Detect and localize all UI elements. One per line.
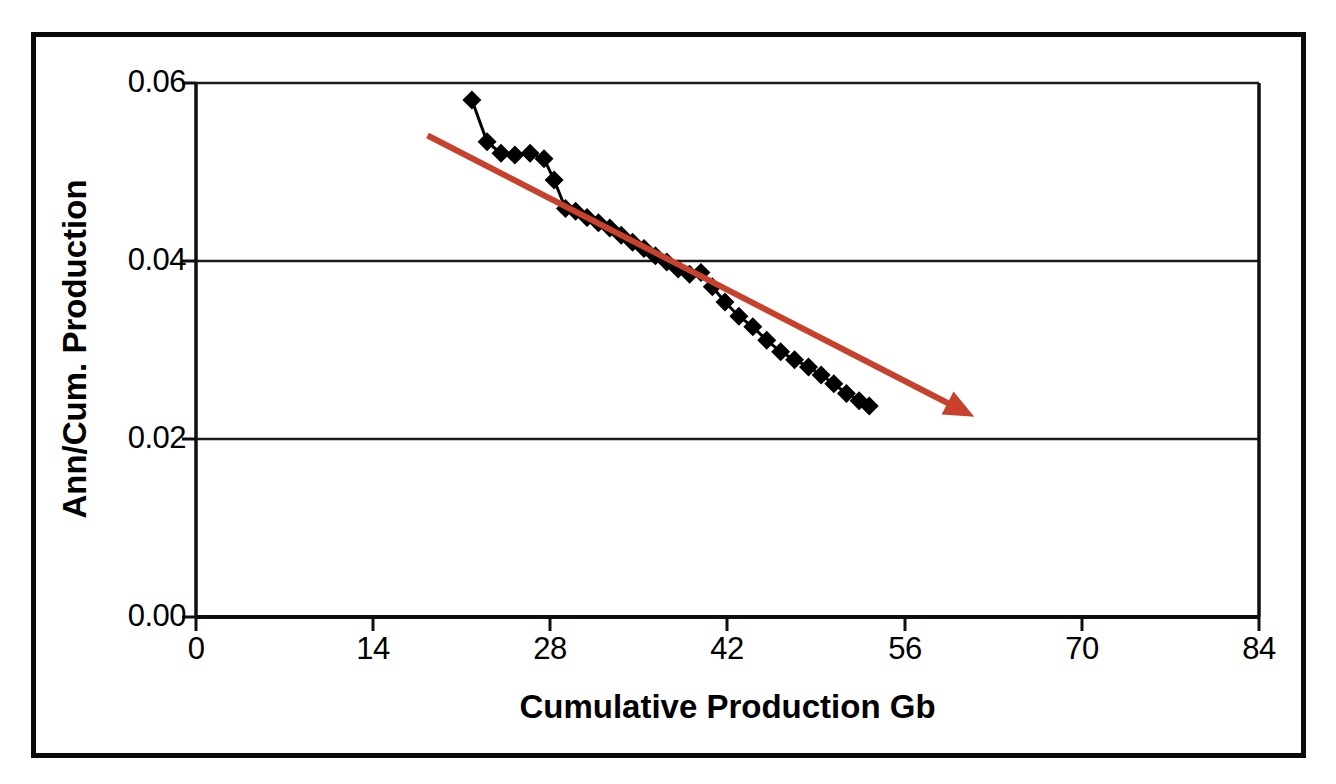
x-tick-label-56: 56 bbox=[845, 633, 965, 664]
x-axis-tick-labels: 0 14 28 42 56 70 84 bbox=[0, 633, 1336, 679]
x-tick-label-84: 84 bbox=[1199, 633, 1319, 664]
y-axis-title: Ann/Cum. Production bbox=[56, 69, 94, 629]
x-axis-ticks bbox=[196, 617, 1259, 631]
x-tick-label-70: 70 bbox=[1022, 633, 1142, 664]
x-tick-label-28: 28 bbox=[490, 633, 610, 664]
x-tick-label-0: 0 bbox=[136, 633, 256, 664]
chart-plot: 0.06 0.04 0.02 0.00 0 14 28 42 56 70 84 … bbox=[0, 0, 1336, 784]
x-tick-label-42: 42 bbox=[667, 633, 787, 664]
plot-area-background bbox=[196, 83, 1259, 617]
x-axis-title: Cumulative Production Gb bbox=[196, 688, 1259, 726]
y-axis-title-text: Ann/Cum. Production bbox=[56, 179, 94, 518]
x-tick-label-14: 14 bbox=[313, 633, 433, 664]
